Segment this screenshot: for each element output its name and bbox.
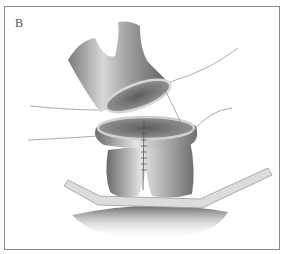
anastomosis-illustration (0, 0, 285, 254)
upper-vessel-segment (68, 22, 174, 119)
lower-vessel-segment (95, 117, 197, 198)
base-tissue (72, 206, 228, 240)
